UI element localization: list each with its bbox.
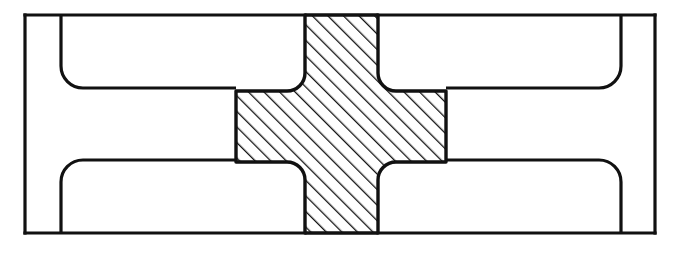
drawing-canvas: [0, 0, 679, 253]
technical-drawing-svg: [0, 0, 679, 253]
